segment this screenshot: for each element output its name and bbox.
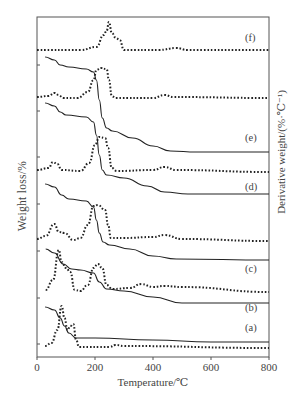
- dtg-curve: [37, 137, 269, 172]
- x-axis-title: Temperature/℃: [118, 376, 189, 389]
- curves-layer: [37, 22, 269, 348]
- x-tick-label: 200: [87, 361, 104, 373]
- tg-curve: [45, 103, 269, 194]
- x-tick-label: 400: [145, 361, 162, 373]
- x-tick-label: 600: [203, 361, 220, 373]
- dtg-curve: [37, 68, 269, 98]
- curve-label: (c): [245, 263, 257, 274]
- tg-curve: [45, 184, 269, 260]
- tg-curve: [46, 249, 269, 303]
- tg-curve: [45, 57, 269, 152]
- curve-label: (d): [245, 181, 257, 192]
- plot-frame: [37, 17, 269, 360]
- dtg-curve: [37, 22, 269, 50]
- curve-label: (e): [245, 132, 257, 143]
- y-axis-right-title: Derivative weight/(%·℃⁻¹): [275, 90, 288, 214]
- curve-label: (a): [245, 322, 257, 333]
- curve-label: (b): [245, 302, 257, 313]
- curve-label: (f): [245, 32, 256, 43]
- x-tick-label: 0: [34, 361, 40, 373]
- chart-canvas: [0, 0, 299, 407]
- dtg-curve: [37, 205, 269, 241]
- tg-curve: [45, 307, 269, 342]
- y-axis-left-title: Weight loss/%: [16, 161, 28, 231]
- x-tick-label: 800: [261, 361, 278, 373]
